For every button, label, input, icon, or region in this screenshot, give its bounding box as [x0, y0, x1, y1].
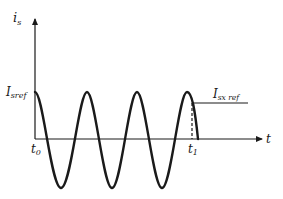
current-waveform-diagram: is t Isref Isx ref t0 t1: [0, 0, 283, 199]
isx-ref-label: Isx ref: [212, 87, 240, 102]
t0-label: t0: [31, 142, 41, 157]
y-axis-label: is: [13, 10, 21, 27]
isref-label: Isref: [5, 85, 28, 100]
x-axis-label: t: [266, 132, 271, 146]
current-waveform: [35, 92, 198, 188]
t1-label: t1: [188, 142, 198, 157]
